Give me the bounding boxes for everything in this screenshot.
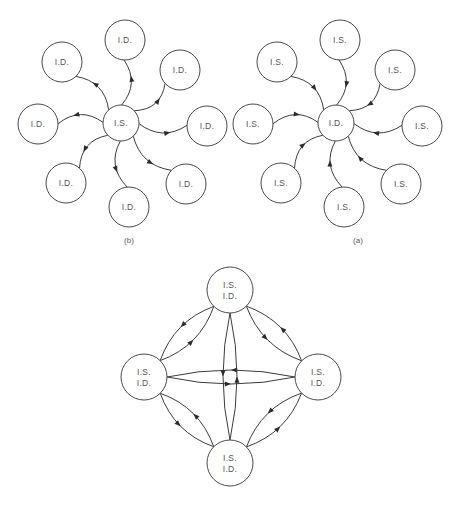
edge-path — [223, 313, 230, 440]
periphery-node: I.D. — [160, 50, 200, 90]
edge-path — [160, 393, 213, 446]
mesh-node: I.S.I.D. — [207, 267, 253, 313]
edge-path — [134, 83, 165, 110]
periphery-node: I.D. — [46, 163, 86, 203]
node-label: I.D. — [223, 291, 237, 301]
node-label: I.S. — [415, 121, 429, 131]
arrowhead-icon — [113, 165, 118, 172]
arrowhead-icon — [130, 76, 135, 83]
figure-stage: I.S.I.D.I.D.I.D.I.D.I.D.I.D.I.D.I.D.(b) … — [0, 0, 458, 507]
edge-path — [291, 76, 324, 109]
edge-path — [246, 393, 301, 447]
node-label: I.S. — [114, 118, 128, 128]
periphery-node: I.S. — [320, 20, 360, 60]
node-label: I.S. — [223, 280, 237, 290]
arrowhead-icon — [235, 377, 240, 383]
node-label: I.S. — [337, 202, 351, 212]
edge-path — [122, 60, 132, 105]
periphery-node: I.D. — [105, 20, 145, 60]
mesh-node: I.S.I.D. — [121, 354, 167, 400]
node-label: I.D. — [223, 464, 237, 474]
node-label: I.S. — [270, 57, 284, 67]
center-node: I.D. — [318, 105, 354, 141]
edge-path — [160, 393, 213, 446]
periphery-node: I.S. — [381, 164, 421, 204]
node-label: I.D. — [173, 65, 187, 75]
arrowhead-icon — [373, 131, 380, 136]
edge-path — [246, 306, 301, 361]
edge-path — [246, 393, 301, 447]
edge-path — [58, 115, 103, 124]
node-label: I.S. — [388, 65, 402, 75]
node-label: I.S. — [223, 453, 237, 463]
edge-path — [76, 76, 109, 109]
node-label: I.D. — [122, 202, 136, 212]
arrowhead-icon — [231, 368, 237, 373]
edge-path — [246, 306, 301, 361]
edge-path — [349, 83, 380, 110]
edge-path — [80, 135, 108, 168]
diagram-panel-c: I.S.I.D.I.S.I.D.I.S.I.D.I.S.I.D. — [100, 255, 360, 507]
edge-path — [295, 135, 323, 168]
node-label: I.D. — [311, 378, 325, 388]
periphery-node: I.S. — [261, 163, 301, 203]
periphery-node: I.S. — [375, 50, 415, 90]
diagram-panel-b: I.S.I.D.I.D.I.D.I.D.I.D.I.D.I.D.I.D.(b) — [0, 0, 229, 253]
arrowhead-icon — [225, 382, 231, 387]
mesh-node: I.S.I.D. — [207, 440, 253, 486]
node-label: I.D. — [329, 118, 343, 128]
periphery-node: I.S. — [233, 104, 273, 144]
edge-path — [230, 313, 237, 440]
node-label: I.S. — [333, 35, 347, 45]
mesh-node: I.S.I.D. — [295, 354, 341, 400]
periphery-node: I.D. — [18, 104, 58, 144]
periphery-node: I.S. — [324, 187, 364, 227]
arrowhead-icon — [293, 112, 299, 117]
diagram-panel-a: I.D.I.S.I.S.I.S.I.S.I.S.I.S.I.S.I.S.(a) — [229, 0, 458, 253]
periphery-node: I.D. — [109, 187, 149, 227]
edge-path — [160, 306, 214, 360]
node-label: I.D. — [200, 121, 214, 131]
arrowhead-icon — [73, 112, 80, 117]
arrowhead-icon — [221, 370, 226, 376]
arrowhead-icon — [327, 160, 332, 166]
periphery-node: I.S. — [402, 106, 442, 146]
edge-path — [139, 124, 187, 133]
node-label: I.S. — [274, 178, 288, 188]
node-label: I.D. — [137, 378, 151, 388]
node-label: I.S. — [311, 367, 325, 377]
panel-caption: (a) — [353, 236, 363, 245]
arrowhead-icon — [299, 143, 305, 149]
node-label: I.D. — [31, 119, 45, 129]
node-label: I.S. — [246, 119, 260, 129]
node-label: I.S. — [137, 367, 151, 377]
node-label: I.D. — [59, 178, 73, 188]
edge-path — [167, 370, 295, 377]
edge-path — [133, 136, 171, 170]
edge-path — [115, 141, 127, 187]
periphery-node: I.S. — [257, 42, 297, 82]
node-label: I.D. — [118, 35, 132, 45]
edge-path — [330, 141, 342, 187]
node-label: I.D. — [179, 179, 193, 189]
periphery-node: I.D. — [187, 106, 227, 146]
arrowhead-icon — [345, 81, 350, 88]
edge-path — [348, 136, 386, 170]
panel-caption: (b) — [124, 236, 134, 245]
node-label: I.S. — [394, 179, 408, 189]
periphery-node: I.D. — [166, 164, 206, 204]
node-label: I.D. — [55, 57, 69, 67]
edge-path — [167, 377, 295, 384]
center-node: I.S. — [103, 105, 139, 141]
edge-path — [160, 306, 214, 360]
arrowhead-icon — [164, 131, 171, 136]
periphery-node: I.D. — [42, 42, 82, 82]
